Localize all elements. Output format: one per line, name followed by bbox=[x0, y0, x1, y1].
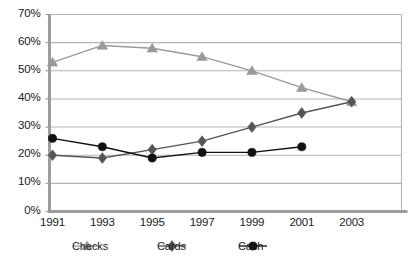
x-axis-tick-label: 1995 bbox=[129, 216, 175, 228]
data-point-cards-1993 bbox=[98, 153, 106, 164]
data-point-cards-1997 bbox=[198, 136, 206, 147]
data-point-cash-1991 bbox=[48, 134, 56, 142]
x-axis-tick-label: 1993 bbox=[79, 216, 125, 228]
data-point-cash-2001 bbox=[298, 143, 306, 151]
data-point-cash-1997 bbox=[198, 148, 206, 156]
data-point-cash-1999 bbox=[248, 148, 256, 156]
chart-container: 70%60%50%40%30%20%10%0% 1991199319951997… bbox=[0, 0, 412, 266]
data-point-cards-1999 bbox=[248, 122, 256, 133]
legend-item-cards: Cards bbox=[157, 239, 191, 253]
legend-label: Checks bbox=[72, 240, 108, 252]
data-point-cards-1995 bbox=[148, 144, 156, 155]
x-axis-tick-label: 2001 bbox=[279, 216, 325, 228]
data-point-cash-1993 bbox=[98, 143, 106, 151]
y-axis-tick-label: 70% bbox=[0, 7, 41, 19]
legend-label: Cash bbox=[238, 240, 263, 252]
x-axis-tick-label: 1991 bbox=[30, 216, 76, 228]
legend-item-cash: Cash bbox=[238, 239, 272, 253]
y-axis-tick-label: 30% bbox=[0, 119, 41, 131]
y-axis-tick-label: 60% bbox=[0, 35, 41, 47]
x-axis-tick-label: 1997 bbox=[179, 216, 225, 228]
x-axis-tick-label: 2003 bbox=[329, 216, 375, 228]
y-axis-tick-label: 0% bbox=[0, 204, 41, 216]
legend-label: Cards bbox=[157, 240, 186, 252]
y-axis-tick-label: 50% bbox=[0, 63, 41, 75]
data-point-cards-2001 bbox=[298, 108, 306, 119]
y-axis-tick-label: 10% bbox=[0, 175, 41, 187]
data-point-checks-1993 bbox=[97, 41, 107, 50]
legend-item-checks: Checks bbox=[72, 239, 106, 253]
y-axis-tick-label: 20% bbox=[0, 147, 41, 159]
data-point-cash-1995 bbox=[148, 154, 156, 162]
y-axis-tick-label: 40% bbox=[0, 91, 41, 103]
x-axis-tick-label: 1999 bbox=[229, 216, 275, 228]
